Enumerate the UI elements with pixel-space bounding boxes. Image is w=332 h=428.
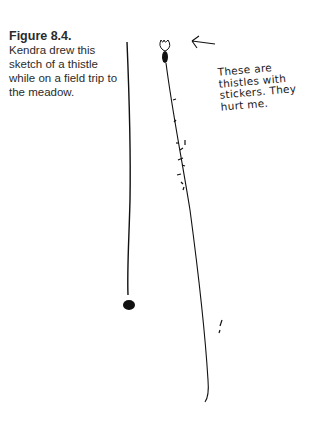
thistle-head [162, 51, 168, 63]
thorns [173, 99, 222, 333]
arrow-icon [192, 36, 215, 48]
thistle-flower-icon [160, 40, 170, 51]
right-stem [166, 63, 208, 402]
left-seedhead [123, 300, 135, 310]
left-stem [127, 42, 130, 295]
handwritten-annotation: These are thistles with stickers. They h… [217, 57, 331, 112]
